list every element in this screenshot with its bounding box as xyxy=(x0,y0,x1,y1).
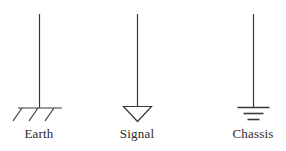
chassis-ground-label: Chassis xyxy=(214,126,286,142)
signal-ground-label: Signal xyxy=(98,126,176,142)
earth-ground-label: Earth xyxy=(0,126,78,142)
